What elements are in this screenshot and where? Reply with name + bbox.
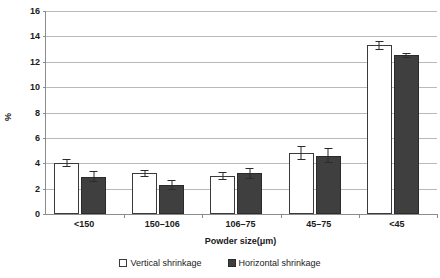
bar-vertical [132, 173, 157, 214]
error-bar-cap [246, 168, 254, 169]
error-bar [379, 41, 380, 50]
y-axis-tick-label: 12 [14, 57, 40, 66]
legend-label: Horizontal shrinkage [239, 258, 321, 268]
error-bar-cap [90, 181, 98, 182]
error-bar-cap [324, 148, 332, 149]
legend-label: Vertical shrinkage [130, 258, 201, 268]
x-axis-tick-label: <150 [74, 219, 94, 229]
x-axis-tick-label: 150–106 [145, 219, 180, 229]
y-axis-tick-label: 0 [14, 210, 40, 219]
error-bar-cap [141, 170, 149, 171]
y-axis-tick-label: 14 [14, 32, 40, 41]
x-axis-tickmark [281, 214, 282, 218]
x-axis-tickmark [359, 214, 360, 218]
y-axis-tick-label: 8 [14, 108, 40, 117]
error-bar-cap [219, 179, 227, 180]
x-axis-title: Powder size(μm) [45, 236, 436, 246]
error-bar [171, 180, 172, 190]
bar-horizontal [316, 156, 341, 214]
bar-vertical [210, 176, 235, 214]
x-axis-tick-label: 45–75 [306, 219, 331, 229]
y-axis-tickmark [43, 214, 46, 215]
error-bar-cap [402, 57, 410, 58]
error-bar-cap [63, 166, 71, 167]
y-axis-tick-label: 4 [14, 159, 40, 168]
error-bar-cap [324, 162, 332, 163]
error-bar-cap [141, 176, 149, 177]
y-axis-title: % [3, 110, 13, 124]
error-bar-cap [168, 189, 176, 190]
error-bar-cap [297, 146, 305, 147]
filled-square-icon [228, 259, 236, 267]
x-axis-tick-labels: <150150–106106–7545–75<45 [45, 219, 436, 233]
bar-chart: % 1614121086420 <150150–106106–7545–75<4… [0, 0, 440, 278]
bar-vertical [54, 163, 79, 214]
y-axis-tick-label: 6 [14, 133, 40, 142]
error-bar-cap [246, 178, 254, 179]
y-axis-tick-labels: 1614121086420 [14, 0, 40, 278]
x-axis-tick-label: 106–75 [225, 219, 255, 229]
bar-group [202, 11, 280, 214]
x-axis-tickmark [202, 214, 203, 218]
bar-horizontal [394, 55, 419, 214]
x-axis-tickmark [437, 214, 438, 218]
error-bar-cap [375, 49, 383, 50]
bar-group [359, 11, 437, 214]
error-bar-cap [90, 171, 98, 172]
error-bar-cap [297, 159, 305, 160]
error-bar-cap [219, 172, 227, 173]
error-bar [301, 146, 302, 160]
error-bar [93, 171, 94, 182]
error-bar-cap [168, 180, 176, 181]
y-axis-tick-label: 16 [14, 7, 40, 16]
bar-vertical [289, 153, 314, 214]
legend-entry: Horizontal shrinkage [228, 258, 321, 268]
error-bar [66, 159, 67, 167]
bar-vertical [367, 45, 392, 214]
chart-legend: Vertical shrinkageHorizontal shrinkage [0, 258, 440, 268]
x-axis-tick-label: <45 [389, 219, 404, 229]
error-bar [249, 168, 250, 179]
bar-group [46, 11, 124, 214]
y-axis-tick-label: 10 [14, 83, 40, 92]
legend-entry: Vertical shrinkage [119, 258, 201, 268]
error-bar-cap [375, 41, 383, 42]
x-axis-tickmark [124, 214, 125, 218]
error-bar-cap [63, 159, 71, 160]
error-bar [328, 148, 329, 163]
open-square-icon [119, 259, 127, 267]
error-bar [144, 170, 145, 176]
bar-group [124, 11, 202, 214]
y-axis-tick-label: 2 [14, 184, 40, 193]
error-bar [222, 172, 223, 180]
error-bar [406, 53, 407, 58]
bar-horizontal [237, 173, 262, 214]
plot-area [45, 11, 437, 215]
bars-layer [46, 11, 437, 214]
bar-group [281, 11, 359, 214]
error-bar-cap [402, 53, 410, 54]
